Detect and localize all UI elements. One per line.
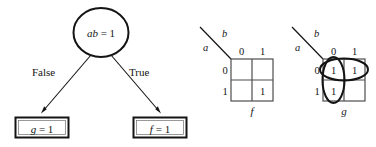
edge-label-false: False <box>32 66 55 78</box>
edge-false <box>41 55 91 114</box>
kmap-g-col-var: b <box>314 28 319 39</box>
tree-leaf-false[interactable]: g = 1 <box>16 118 69 138</box>
kmap-g-row-header-1: 1 <box>314 86 319 97</box>
kmap-g-row-header-0: 0 <box>314 65 319 76</box>
root-node-label: ab = 1 <box>87 27 115 39</box>
edge-true-line <box>111 55 159 111</box>
kmap-g-name: g <box>341 105 347 117</box>
kmap-g-col-header-1: 1 <box>352 46 357 57</box>
kmap-g-cell-1-0: 1 <box>331 86 336 97</box>
kmap-f-col-var: b <box>222 28 227 39</box>
root-node-expr-var: ab <box>87 27 99 39</box>
tree-root-node[interactable]: ab = 1 <box>74 8 129 57</box>
figure-svg: False True ab = 1 g = 1 <box>0 0 376 147</box>
kmap-f-row-header-0: 0 <box>222 65 227 76</box>
leaf-false-expr-rel: = 1 <box>36 123 53 135</box>
kmap-g-col-header-0: 0 <box>331 46 336 57</box>
edge-false-line <box>44 55 92 111</box>
kmap-f-grid <box>231 59 273 101</box>
decision-tree-panel: False True ab = 1 g = 1 <box>16 8 187 138</box>
kmap-f-cell-1-1: 1 <box>260 86 265 97</box>
edge-label-true: True <box>129 66 149 78</box>
kmap-g-cell-0-1: 1 <box>352 65 357 76</box>
leaf-true-expr-rel: = 1 <box>153 123 170 135</box>
root-node-expr-rel: = 1 <box>98 27 115 39</box>
leaf-false-label: g = 1 <box>31 123 54 135</box>
kmap-f-name: f <box>250 105 255 117</box>
kmap-f-panel: b a 0 1 0 1 1 f <box>200 27 273 117</box>
kmap-f-col-header-1: 1 <box>260 46 265 57</box>
kmap-f-row-header-1: 1 <box>222 86 227 97</box>
tree-leaf-true[interactable]: f = 1 <box>134 118 187 138</box>
kmap-g-panel: b a 0 1 0 1 1 1 1 g <box>292 27 368 117</box>
figure-canvas: False True ab = 1 g = 1 <box>0 0 376 147</box>
edge-true <box>111 55 161 114</box>
kmap-f-row-var: a <box>203 42 208 53</box>
leaf-true-label: f = 1 <box>150 123 170 135</box>
kmap-f-col-header-0: 0 <box>239 46 244 57</box>
kmap-g-cell-0-0: 1 <box>331 65 336 76</box>
kmap-g-row-var: a <box>295 42 300 53</box>
